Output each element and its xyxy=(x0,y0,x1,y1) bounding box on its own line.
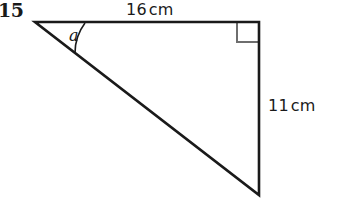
top-side-unit: cm xyxy=(149,0,174,19)
triangle-outline xyxy=(35,22,259,195)
angle-label-a: a xyxy=(69,28,79,44)
right-angle-marker xyxy=(237,22,258,42)
problem-number: 15 xyxy=(0,1,23,20)
top-side-value: 16 xyxy=(126,0,147,19)
right-side-length-label: 11cm xyxy=(268,98,316,114)
geometry-figure: 15 16cm 11cm a xyxy=(0,0,337,202)
right-side-value: 11 xyxy=(268,96,289,115)
right-side-unit: cm xyxy=(291,96,316,115)
top-side-length-label: 16cm xyxy=(126,2,174,18)
